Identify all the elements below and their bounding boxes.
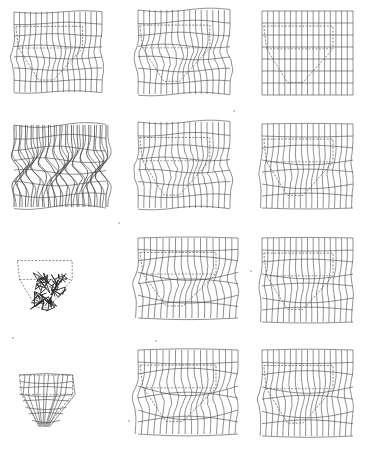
mesh-panel-r1-c0 — [14, 125, 106, 207]
mesh-panel-r1-c2 — [262, 124, 353, 208]
scan-speck — [155, 340, 157, 342]
mesh-panel-r2-c1 — [138, 238, 238, 318]
mesh-panel-r0-c1 — [138, 10, 230, 94]
mesh-panel-r2-c0 — [16, 248, 88, 318]
mesh-panel-r3-c2 — [262, 350, 353, 436]
mesh-panel-r2-c2 — [262, 238, 353, 322]
scan-speck — [118, 222, 120, 224]
mesh-panel-r3-c1 — [138, 350, 238, 434]
mesh-panel-r0-c2 — [262, 11, 353, 95]
mesh-panel-r0-c0 — [14, 12, 102, 92]
mesh-panel-r3-c0 — [18, 362, 88, 434]
scan-speck — [250, 270, 252, 272]
mesh-panel-r1-c1 — [138, 122, 230, 208]
scan-speck — [128, 420, 130, 422]
scan-speck — [12, 337, 14, 339]
scan-speck — [233, 110, 235, 112]
